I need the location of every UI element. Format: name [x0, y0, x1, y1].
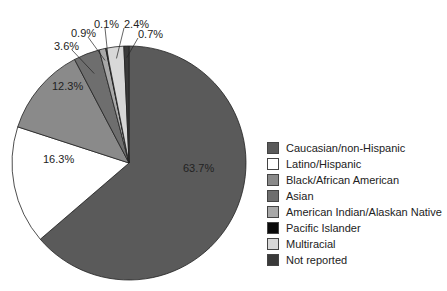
legend-label: Asian	[286, 190, 314, 202]
legend-swatch	[267, 222, 279, 234]
legend-swatch	[267, 190, 279, 202]
legend-label: Caucasian/non-Hispanic	[286, 142, 405, 154]
slice-label-caucasian: 63.7%	[183, 162, 214, 174]
legend-item: Multiracial	[267, 236, 442, 252]
legend-label: Not reported	[286, 254, 347, 266]
legend-label: Pacific Islander	[286, 222, 361, 234]
slice-label-pacific: 0.1%	[94, 18, 119, 30]
slice-label-latino: 16.3%	[43, 153, 74, 165]
legend-item: Pacific Islander	[267, 220, 442, 236]
slice-label-asian: 3.6%	[54, 40, 79, 52]
legend-label: Black/African American	[286, 174, 399, 186]
legend-label: Latino/Hispanic	[286, 158, 361, 170]
legend-swatch	[267, 142, 279, 154]
slice-label-notreported: 0.7%	[138, 28, 163, 40]
legend-swatch	[267, 158, 279, 170]
legend-item: Latino/Hispanic	[267, 156, 442, 172]
slice-label-amindian: 0.9%	[71, 27, 96, 39]
legend-item: American Indian/Alaskan Native	[267, 204, 442, 220]
legend-swatch	[267, 254, 279, 266]
legend-item: Caucasian/non-Hispanic	[267, 140, 442, 156]
legend-swatch	[267, 206, 279, 218]
legend-swatch	[267, 174, 279, 186]
legend-swatch	[267, 238, 279, 250]
legend-item: Black/African American	[267, 172, 442, 188]
slice-label-black: 12.3%	[52, 80, 83, 92]
legend-item: Not reported	[267, 252, 442, 268]
legend: Caucasian/non-Hispanic Latino/Hispanic B…	[267, 140, 442, 268]
legend-label: American Indian/Alaskan Native	[286, 206, 442, 218]
legend-label: Multiracial	[286, 238, 336, 250]
legend-item: Asian	[267, 188, 442, 204]
